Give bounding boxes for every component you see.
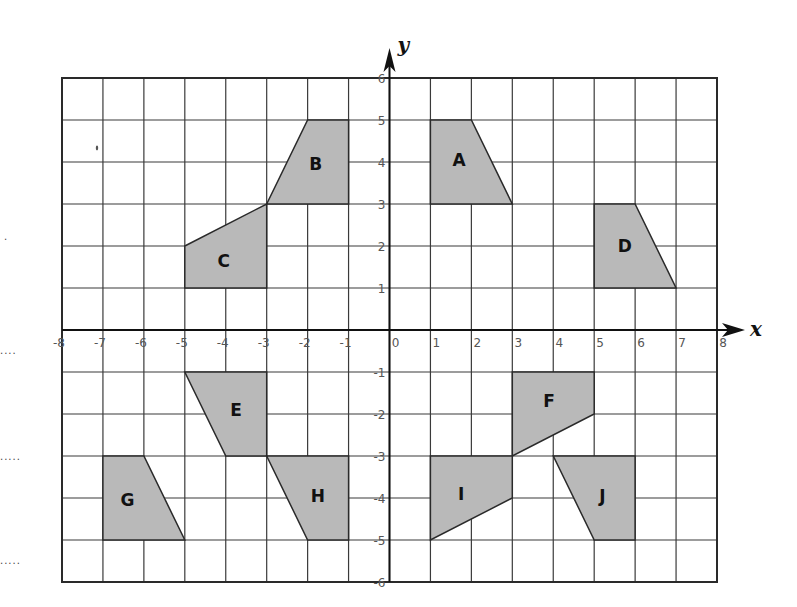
- y-tick-label: -1: [374, 366, 386, 380]
- x-tick-label: -7: [94, 336, 106, 350]
- shape-label-h: H: [311, 486, 325, 506]
- shape-label-b: B: [309, 154, 322, 174]
- shape-label-e: E: [230, 400, 242, 420]
- x-tick-label: 6: [637, 336, 645, 350]
- shape-label-i: I: [458, 484, 464, 504]
- y-tick-label: 4: [378, 156, 386, 170]
- margin-dots: .....: [0, 452, 21, 462]
- shape-label-a: A: [453, 150, 467, 170]
- x-tick-label: 4: [555, 336, 563, 350]
- margin-dots: .....: [0, 556, 21, 566]
- y-tick-label: -5: [374, 534, 386, 548]
- axes: x y: [62, 33, 763, 582]
- shape-label-c: C: [217, 251, 229, 271]
- scan-mark: [96, 146, 98, 151]
- margin-dots: ....: [0, 346, 17, 356]
- y-tick-label: 2: [378, 240, 386, 254]
- x-tick-label: -1: [340, 336, 352, 350]
- coordinate-grid-figure: x y -8-7-6-5-4-3-2-1012345678654321-1-2-…: [0, 0, 797, 607]
- shape-label-j: J: [598, 486, 605, 506]
- x-tick-label: -4: [217, 336, 229, 350]
- y-tick-label: 6: [378, 72, 386, 86]
- x-tick-label: -3: [258, 336, 270, 350]
- y-tick-label: 5: [378, 114, 386, 128]
- margin-dots: .: [4, 232, 8, 242]
- x-axis-label: x: [749, 317, 763, 341]
- x-tick-label: 1: [433, 336, 441, 350]
- y-tick-label: 3: [378, 198, 386, 212]
- shape-label-d: D: [618, 236, 632, 256]
- x-tick-label: 5: [596, 336, 604, 350]
- y-tick-label: 1: [378, 282, 386, 296]
- coordinate-grid: x y -8-7-6-5-4-3-2-1012345678654321-1-2-…: [0, 0, 797, 607]
- x-tick-label: 2: [474, 336, 482, 350]
- x-tick-label: -8: [53, 336, 65, 350]
- y-axis-label: y: [397, 33, 411, 57]
- shape-label-f: F: [543, 391, 555, 411]
- x-tick-label: -2: [299, 336, 311, 350]
- x-tick-label: -5: [176, 336, 188, 350]
- x-tick-label: 0: [392, 336, 400, 350]
- x-tick-label: 7: [678, 336, 686, 350]
- x-tick-label: -6: [135, 336, 147, 350]
- y-tick-label: -4: [374, 492, 386, 506]
- shape-label-g: G: [121, 490, 135, 510]
- x-tick-label: 8: [719, 336, 727, 350]
- y-tick-label: -2: [374, 408, 386, 422]
- y-tick-label: -6: [374, 576, 386, 590]
- y-tick-label: -3: [374, 450, 386, 464]
- x-tick-label: 3: [514, 336, 522, 350]
